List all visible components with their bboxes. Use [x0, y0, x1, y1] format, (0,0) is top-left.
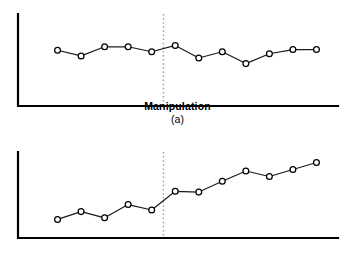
chart-a-manipulation-label: Manipulation — [0, 101, 355, 112]
data-point-marker — [290, 167, 296, 173]
data-point-marker — [102, 44, 108, 50]
data-point-marker — [149, 207, 155, 213]
data-point-marker — [149, 49, 155, 55]
chart-b-plot — [0, 137, 355, 277]
data-point-marker — [78, 53, 84, 59]
data-point-marker — [243, 61, 249, 67]
chart-a-panel-letter: (a) — [0, 114, 355, 125]
data-point-marker — [243, 168, 249, 174]
panel-b: Manipulation (b) — [0, 137, 355, 277]
data-point-marker — [219, 49, 225, 55]
panel-a: Manipulation (a) — [0, 0, 355, 137]
figure-root: Manipulation (a) Manipulation (b) — [0, 0, 355, 277]
data-point-marker — [172, 188, 178, 194]
data-point-marker — [125, 202, 131, 208]
data-point-marker — [125, 44, 131, 50]
data-point-marker — [290, 47, 296, 53]
data-point-marker — [196, 189, 202, 195]
data-point-marker — [196, 55, 202, 61]
data-point-marker — [55, 47, 61, 53]
chart-a-axes — [18, 14, 338, 106]
chart-b-markers — [55, 160, 320, 223]
data-point-marker — [266, 174, 272, 180]
data-point-marker — [219, 178, 225, 184]
chart-a-markers — [55, 43, 320, 67]
data-point-marker — [314, 47, 320, 53]
data-point-marker — [55, 217, 61, 223]
data-point-marker — [172, 43, 178, 49]
chart-a-series-line — [58, 45, 317, 63]
data-point-marker — [78, 209, 84, 215]
data-point-marker — [314, 160, 320, 166]
data-point-marker — [266, 51, 272, 57]
chart-a-caption: Manipulation (a) — [0, 101, 355, 125]
chart-b-axes — [18, 152, 338, 238]
chart-b-series-line — [58, 162, 317, 219]
data-point-marker — [102, 215, 108, 221]
